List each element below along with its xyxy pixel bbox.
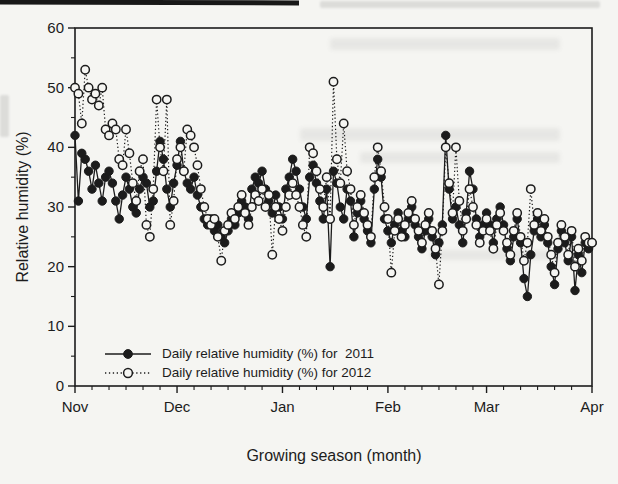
- y-axis-title: Relative humidity (%): [14, 131, 32, 282]
- data-point-2011: [292, 167, 300, 175]
- data-point-2012: [282, 203, 290, 211]
- data-point-2012: [448, 209, 456, 217]
- y-tick-label: 40: [47, 138, 64, 155]
- plot-canvas: 0102030405060NovDecJanFebMarApr: [0, 0, 618, 484]
- data-point-2011: [98, 197, 106, 205]
- data-point-2012: [329, 78, 337, 86]
- data-point-2012: [200, 203, 208, 211]
- data-point-2012: [380, 203, 388, 211]
- data-point-2012: [465, 185, 473, 193]
- legend-item-2012: Daily relative humidity (%) for 2012: [102, 363, 374, 382]
- data-point-2012: [139, 155, 147, 163]
- data-point-2012: [360, 209, 368, 217]
- x-tick-label: Apr: [580, 398, 603, 415]
- data-point-2011: [149, 197, 157, 205]
- data-point-2011: [169, 179, 177, 187]
- data-point-2011: [115, 215, 123, 223]
- data-point-2011: [118, 191, 126, 199]
- data-point-2012: [129, 179, 137, 187]
- data-point-2012: [503, 239, 511, 247]
- data-point-2012: [292, 191, 300, 199]
- data-point-2012: [574, 245, 582, 253]
- data-point-2012: [210, 215, 218, 223]
- data-point-2012: [408, 197, 416, 205]
- data-point-2011: [74, 197, 82, 205]
- data-point-2012: [428, 227, 436, 235]
- data-point-2011: [84, 167, 92, 175]
- data-point-2012: [180, 167, 188, 175]
- data-point-2012: [435, 280, 443, 288]
- data-point-2011: [88, 185, 96, 193]
- data-point-2012: [564, 251, 572, 259]
- data-point-2012: [271, 203, 279, 211]
- x-tick-label: Nov: [62, 398, 89, 415]
- data-point-2012: [496, 209, 504, 217]
- data-point-2012: [265, 191, 273, 199]
- data-point-2012: [431, 245, 439, 253]
- y-tick-label: 10: [47, 317, 64, 334]
- x-tick-label: Feb: [375, 398, 401, 415]
- data-point-2011: [350, 233, 358, 241]
- data-point-2011: [105, 167, 113, 175]
- x-tick-label: Mar: [474, 398, 500, 415]
- data-point-2012: [288, 179, 296, 187]
- data-point-2012: [357, 191, 365, 199]
- data-point-2012: [499, 227, 507, 235]
- data-point-2012: [193, 161, 201, 169]
- data-point-2012: [275, 215, 283, 223]
- data-point-2012: [462, 215, 470, 223]
- data-point-2012: [506, 251, 514, 259]
- data-point-2012: [163, 95, 171, 103]
- data-point-2012: [425, 209, 433, 217]
- data-point-2012: [132, 197, 140, 205]
- legend-item-2011: Daily relative humidity (%) for 2011: [102, 344, 374, 363]
- data-point-2012: [544, 233, 552, 241]
- data-point-2012: [476, 239, 484, 247]
- data-point-2011: [550, 280, 558, 288]
- data-point-2011: [81, 155, 89, 163]
- data-point-2012: [374, 143, 382, 151]
- data-point-2012: [340, 119, 348, 127]
- data-point-2012: [268, 251, 276, 259]
- data-point-2012: [540, 215, 548, 223]
- data-point-2011: [523, 292, 531, 300]
- data-point-2011: [465, 167, 473, 175]
- legend: Daily relative humidity (%) for 2011 Dai…: [102, 344, 374, 382]
- data-point-2012: [363, 221, 371, 229]
- data-point-2012: [411, 215, 419, 223]
- data-point-2012: [520, 257, 528, 265]
- data-point-2011: [459, 239, 467, 247]
- data-point-2012: [197, 185, 205, 193]
- data-point-2012: [333, 155, 341, 163]
- data-point-2011: [258, 167, 266, 175]
- data-point-2011: [374, 155, 382, 163]
- data-point-2012: [142, 221, 150, 229]
- data-point-2011: [387, 239, 395, 247]
- data-point-2012: [527, 185, 535, 193]
- x-axis-title: Growing season (month): [246, 447, 421, 465]
- data-point-2011: [71, 131, 79, 139]
- data-point-2012: [118, 161, 126, 169]
- data-point-2012: [377, 167, 385, 175]
- data-point-2012: [112, 125, 120, 133]
- data-point-2012: [469, 203, 477, 211]
- data-point-2012: [217, 257, 225, 265]
- data-point-2012: [588, 239, 596, 247]
- data-point-2012: [489, 245, 497, 253]
- data-point-2012: [438, 227, 446, 235]
- data-point-2012: [452, 143, 460, 151]
- data-point-2012: [367, 233, 375, 241]
- data-point-2012: [397, 233, 405, 241]
- data-point-2012: [547, 251, 555, 259]
- data-point-2012: [244, 221, 252, 229]
- data-point-2011: [186, 185, 194, 193]
- data-point-2012: [231, 215, 239, 223]
- data-point-2011: [288, 155, 296, 163]
- data-point-2012: [176, 143, 184, 151]
- filled-circle-solid-line-icon: [102, 347, 154, 361]
- data-point-2011: [571, 286, 579, 294]
- data-point-2012: [322, 173, 330, 181]
- data-point-2012: [459, 227, 467, 235]
- data-point-2012: [295, 203, 303, 211]
- data-point-2012: [326, 215, 334, 223]
